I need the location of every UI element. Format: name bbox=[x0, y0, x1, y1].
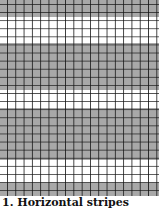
grid-lines bbox=[0, 0, 159, 196]
figure-caption: 1. Horizontal stripes bbox=[2, 197, 129, 209]
stripes-figure bbox=[0, 0, 159, 196]
